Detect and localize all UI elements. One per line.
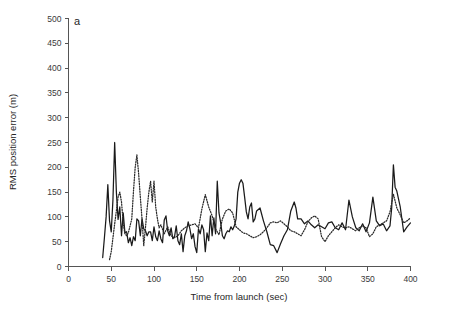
x-tick-label: 350 [361,274,375,284]
figure-panel-a: 050100150200250300350400450500 050100150… [0,0,450,316]
series-solid-line [103,143,411,258]
y-tick-label: 400 [47,63,61,73]
y-tick-label: 150 [47,187,61,197]
panel-label: a [74,15,81,27]
chart-canvas: 050100150200250300350400450500 050100150… [0,0,450,316]
axes [69,19,411,267]
y-tick-label: 50 [52,237,62,247]
x-tick-label: 0 [66,274,71,284]
y-tick-label: 300 [47,113,61,123]
y-tick-label: 100 [47,212,61,222]
x-tick-label: 250 [275,274,289,284]
x-axis-ticks: 050100150200250300350400 [66,267,418,284]
y-tick-label: 500 [47,14,61,24]
x-tick-label: 150 [190,274,204,284]
x-axis-title: Time from launch (sec) [191,291,288,302]
x-tick-label: 300 [318,274,332,284]
y-tick-label: 350 [47,88,61,98]
x-tick-label: 200 [232,274,246,284]
y-axis-ticks: 050100150200250300350400450500 [47,14,68,272]
series-dotted-line [110,155,411,260]
y-axis-title: RMS position error (m) [7,94,18,190]
y-tick-label: 250 [47,138,61,148]
x-tick-label: 400 [403,274,417,284]
y-tick-label: 0 [57,262,62,272]
x-tick-label: 100 [147,274,161,284]
y-tick-label: 450 [47,38,61,48]
y-tick-label: 200 [47,162,61,172]
data-series [103,143,411,260]
x-tick-label: 50 [107,274,117,284]
